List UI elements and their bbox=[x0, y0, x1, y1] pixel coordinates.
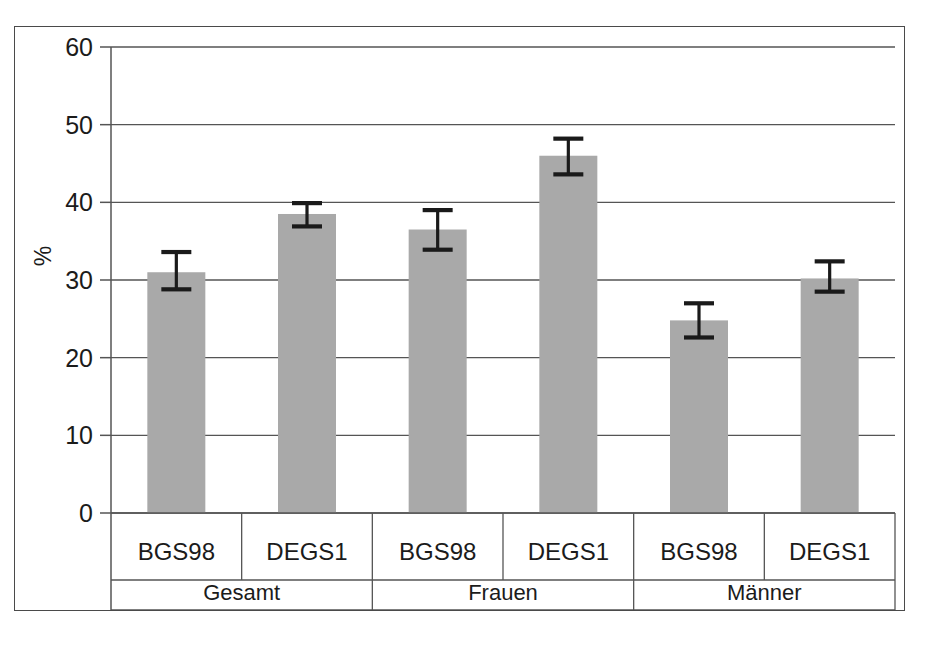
bar-männer-degs1 bbox=[801, 278, 859, 513]
ytick-label-10: 10 bbox=[65, 421, 93, 449]
group-label-frauen: Frauen bbox=[468, 580, 538, 605]
bar-frauen-bgs98 bbox=[409, 230, 467, 513]
category-label-3: BGS98 bbox=[399, 538, 476, 565]
category-label-5: BGS98 bbox=[660, 538, 737, 565]
category-label-6: DEGS1 bbox=[789, 538, 870, 565]
category-label-2: DEGS1 bbox=[266, 538, 347, 565]
y-axis-title: % bbox=[30, 246, 56, 266]
ytick-label-30: 30 bbox=[65, 266, 93, 294]
ytick-label-40: 40 bbox=[65, 188, 93, 216]
bar-gesamt-degs1 bbox=[278, 214, 336, 513]
bar-männer-bgs98 bbox=[670, 320, 728, 513]
category-label-4: DEGS1 bbox=[528, 538, 609, 565]
ytick-label-50: 50 bbox=[65, 111, 93, 139]
figure-container: 0102030405060%BGS98DEGS1BGS98DEGS1BGS98D… bbox=[0, 0, 933, 646]
bar-frauen-degs1 bbox=[539, 156, 597, 513]
group-label-männer: Männer bbox=[727, 580, 802, 605]
ytick-label-0: 0 bbox=[79, 499, 93, 527]
ytick-label-60: 60 bbox=[65, 33, 93, 61]
chart-frame: 0102030405060%BGS98DEGS1BGS98DEGS1BGS98D… bbox=[14, 26, 905, 611]
bar-gesamt-bgs98 bbox=[147, 272, 205, 513]
category-label-1: BGS98 bbox=[138, 538, 215, 565]
bar-chart-plot: 0102030405060%BGS98DEGS1BGS98DEGS1BGS98D… bbox=[15, 27, 904, 610]
group-label-gesamt: Gesamt bbox=[203, 580, 280, 605]
ytick-label-20: 20 bbox=[65, 344, 93, 372]
